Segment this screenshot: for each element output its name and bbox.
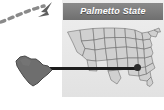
map-panel: Palmetto State [62, 0, 164, 97]
dashed-curved-arrow-icon [0, 0, 62, 26]
figure-canvas: Palmetto State [0, 0, 164, 110]
callout-connector-line [46, 67, 138, 70]
panel-title: Palmetto State [80, 7, 145, 16]
united-states-map [65, 21, 162, 87]
highlighted-state-marker [134, 64, 141, 71]
south-carolina-shape [10, 52, 56, 88]
panel-title-bar: Palmetto State [63, 3, 163, 20]
